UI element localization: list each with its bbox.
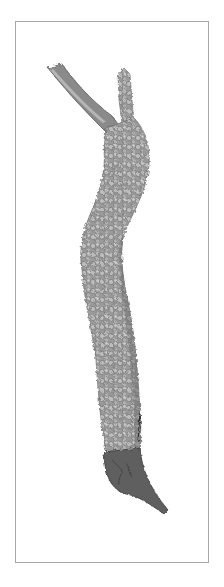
branch	[48, 64, 168, 514]
right-twig	[118, 68, 134, 124]
branch-illustration	[0, 0, 224, 587]
branch-base	[104, 448, 168, 514]
left-limb	[48, 64, 118, 132]
